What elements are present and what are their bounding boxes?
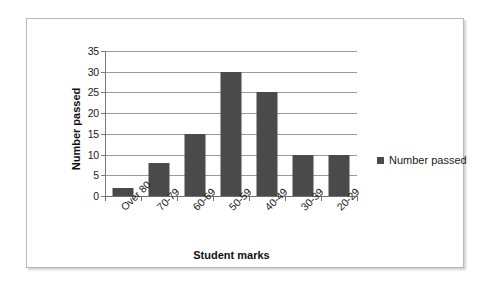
bar-series bbox=[105, 51, 357, 196]
chart-legend: Number passed bbox=[377, 154, 467, 166]
x-axis-tick bbox=[105, 197, 106, 201]
y-axis-tick bbox=[101, 92, 105, 93]
y-axis-tick bbox=[101, 134, 105, 135]
bar[interactable] bbox=[221, 72, 242, 196]
plot-area bbox=[105, 51, 357, 196]
y-axis-tick bbox=[101, 175, 105, 176]
bar[interactable] bbox=[257, 92, 278, 196]
bar-slot bbox=[213, 51, 249, 196]
bar-slot bbox=[177, 51, 213, 196]
bar-slot bbox=[105, 51, 141, 196]
y-axis-tick bbox=[101, 72, 105, 73]
bar[interactable] bbox=[185, 134, 206, 196]
y-axis-tick-label: 0 bbox=[77, 191, 99, 202]
bar-slot bbox=[285, 51, 321, 196]
legend-label: Number passed bbox=[389, 154, 467, 166]
y-axis-tick-label: 35 bbox=[77, 46, 99, 57]
x-axis-title: Student marks bbox=[105, 249, 358, 261]
bar-slot bbox=[321, 51, 357, 196]
y-axis-title: Number passed bbox=[70, 74, 82, 184]
bar[interactable] bbox=[293, 155, 314, 196]
y-axis-line bbox=[105, 51, 106, 197]
legend-swatch-icon bbox=[377, 157, 384, 164]
bar[interactable] bbox=[329, 155, 350, 196]
bar-slot bbox=[141, 51, 177, 196]
chart-frame: 05101520253035 Over 8070-7960-6950-5940-… bbox=[26, 18, 464, 268]
bar-slot bbox=[249, 51, 285, 196]
y-axis-tick bbox=[101, 51, 105, 52]
y-axis-tick bbox=[101, 155, 105, 156]
y-axis-tick bbox=[101, 113, 105, 114]
